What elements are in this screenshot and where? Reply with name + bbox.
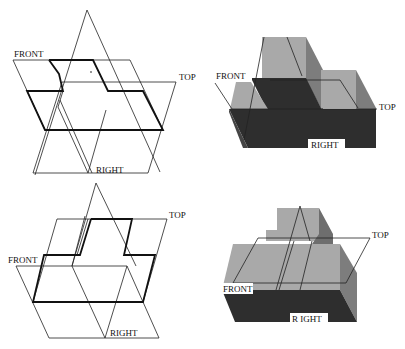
label-right: RIGHT [96,165,124,175]
right-plane-outline [72,183,136,266]
panel-top-left-wireframe: FRONT TOP RIGHT [13,10,196,175]
panel-bottom-right-solid: FRONT TOP R IGHT [221,206,389,324]
label-top: TOP [372,230,389,240]
label-top: TOP [169,210,186,220]
base-slab-front [229,109,376,148]
projection-figure: FRONT TOP RIGHT FRONT TOP RIGHT [0,0,405,349]
top-block-front-face [266,208,319,241]
label-right: RIGHT [311,140,339,150]
object-outline [33,219,155,302]
label-front: FRONT [223,284,253,294]
right-plane-outline [35,10,160,175]
label-right: R IGHT [292,314,322,324]
label-top: TOP [179,72,196,82]
object-outline [27,60,163,130]
label-top: TOP [379,102,396,112]
hidden-edge [58,91,88,173]
label-front: FRONT [8,255,38,265]
label-right: RIGHT [110,328,138,338]
base-slab-front [222,290,357,322]
marker-dot [90,71,92,73]
panel-bottom-left-wireframe: TOP FRONT RIGHT [8,183,186,338]
label-front: FRONT [14,49,44,59]
panel-top-right-solid: FRONT TOP RIGHT [215,37,396,150]
label-front: FRONT [216,71,246,81]
front-plane [13,60,163,130]
right-plane-edge [60,100,92,173]
right-block-front-face [321,70,356,108]
right-plane-edge [88,110,106,173]
tall-block-front-face [262,37,306,80]
